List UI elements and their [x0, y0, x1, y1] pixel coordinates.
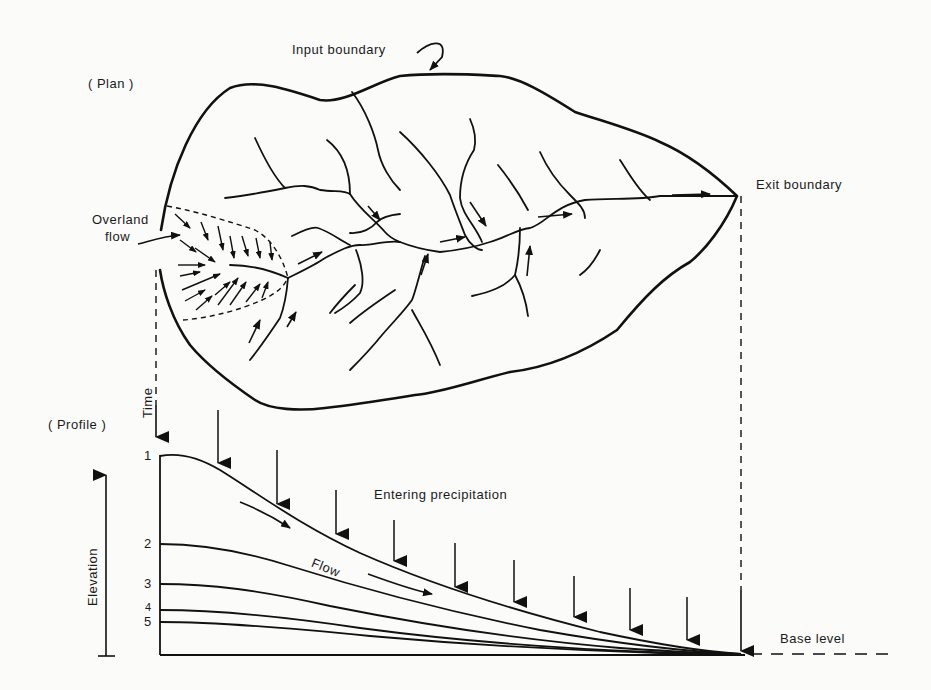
profile-curves — [160, 455, 741, 655]
precipitation-arrows — [218, 410, 687, 640]
overland-flow-label-line2: flow — [105, 229, 130, 244]
plan-section-label: ( Plan ) — [88, 76, 134, 91]
elevation-axis — [98, 475, 115, 656]
profile-curve-4 — [160, 610, 741, 655]
basin-outline — [160, 74, 737, 410]
stage-label-1: 1 — [144, 448, 151, 463]
elevation-label: Elevation — [85, 548, 100, 606]
overland-flow-arrows — [175, 214, 272, 310]
entering-precipitation-label: Entering precipitation — [374, 487, 507, 502]
input-boundary-arrow — [417, 43, 443, 70]
profile-curve-2 — [160, 544, 741, 654]
drainage-basin-diagram: ( Plan ) Input boundary Exit boundary Ov… — [0, 0, 931, 690]
stage-label-4: 4 — [145, 601, 151, 613]
channel-network — [225, 92, 737, 370]
stage-label-2: 2 — [144, 536, 151, 551]
base-level-label: Base level — [780, 631, 845, 646]
overland-flow-label-arrow — [138, 235, 180, 244]
time-label: Time — [140, 388, 155, 418]
stage-label-3: 3 — [144, 576, 151, 591]
stage-label-5: 5 — [144, 614, 151, 629]
input-boundary-label: Input boundary — [292, 42, 386, 57]
diagram-graphics — [0, 0, 931, 690]
overland-flow-label-line1: Overland — [92, 212, 149, 227]
profile-section-label: ( Profile ) — [48, 417, 106, 432]
exit-boundary-label: Exit boundary — [756, 177, 842, 192]
channel-flow-arrows — [249, 194, 710, 343]
